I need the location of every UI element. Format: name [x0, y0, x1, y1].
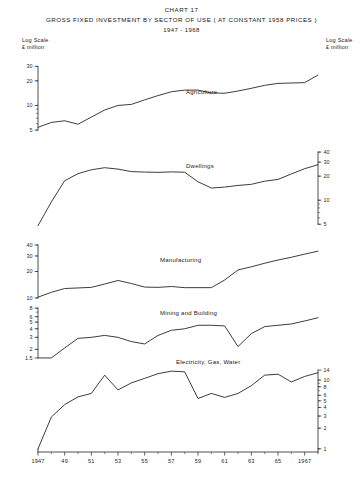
series-line [38, 165, 318, 226]
axis-tick-label: 40 [324, 149, 330, 155]
panels-layer: 5102030Agriculture510203040Dwellings1020… [25, 63, 330, 451]
series-line [38, 371, 318, 449]
axis-tick-label: 6 [30, 314, 33, 320]
x-axis-year-label: 55 [141, 458, 148, 464]
axis-tick-label: 8 [324, 384, 327, 390]
x-axis-year-label: 1947 [31, 458, 44, 464]
axis-tick-label: 3 [30, 334, 33, 340]
series-label: Agriculture [186, 89, 218, 95]
panel-agriculture: 5102030Agriculture [27, 63, 319, 133]
panel-manufacturing: 10203040Manufacturing [27, 242, 319, 301]
right-scale-label-line1: Log Scale [326, 37, 353, 43]
panel-dwellings: 510203040Dwellings [38, 149, 330, 227]
axis-tick-label: 4 [324, 404, 327, 410]
x-axis-year-label: 65 [275, 458, 282, 464]
axis-tick-label: 2 [30, 346, 33, 352]
x-axis-year-label: 63 [248, 458, 255, 464]
right-scale-label-line2: £ million [326, 44, 348, 50]
chart-period: 1947 - 1968 [163, 27, 200, 33]
x-axis-year-label: 53 [115, 458, 122, 464]
axis-tick-label: 4 [30, 326, 33, 332]
panel-mining-and-building: 1.5234568Mining and Building [25, 305, 318, 361]
axis-tick-label: 30 [324, 159, 330, 165]
axis-tick-label: 8 [30, 305, 33, 311]
axis-tick-label: 6 [324, 392, 327, 398]
axis-tick-label: 30 [27, 63, 33, 69]
x-axis-year-label: 59 [195, 458, 202, 464]
x-axis-year-label: 1967 [298, 458, 311, 464]
axis-tick-label: 1 [324, 446, 327, 452]
axis-tick-label: 3 [324, 413, 327, 419]
x-axis-year-label: 57 [168, 458, 175, 464]
axis-tick-label: 10 [324, 377, 330, 383]
axis-tick-label: 1.5 [25, 355, 33, 361]
x-axis-year-label: 49 [61, 458, 68, 464]
chart-title: GROSS FIXED INVESTMENT BY SECTOR OF USE … [46, 16, 317, 23]
axis-tick-label: 5 [324, 221, 327, 227]
series-label: Dwellings [186, 163, 214, 169]
axis-tick-label: 2 [324, 425, 327, 431]
axis-tick-label: 20 [27, 78, 33, 84]
x-axis: 19474951535557596163651967 [31, 449, 318, 464]
axis-tick-label: 10 [27, 102, 33, 108]
axis-tick-label: 20 [324, 173, 330, 179]
chart-number: CHART 17 [165, 6, 199, 13]
axis-tick-label: 10 [27, 295, 33, 301]
axis-tick-label: 5 [30, 319, 33, 325]
panel-electricity-gas-water: 12345681014Electricity, Gas, Water [38, 359, 330, 452]
axis-tick-label: 5 [30, 127, 33, 133]
left-scale-label-line2: £ million [22, 44, 44, 50]
x-axis-year-label: 61 [221, 458, 228, 464]
series-label: Electricity, Gas, Water [176, 359, 240, 365]
axis-tick-label: 14 [324, 367, 330, 373]
axis-tick-label: 10 [324, 197, 330, 203]
series-line [38, 318, 318, 358]
axis-tick-label: 20 [27, 268, 33, 274]
axis-tick-label: 40 [27, 242, 33, 248]
series-label: Manufacturing [160, 257, 201, 263]
axis-tick-label: 30 [27, 253, 33, 259]
series-line [38, 75, 318, 127]
series-label: Mining and Building [160, 310, 217, 316]
chart-canvas: CHART 17 GROSS FIXED INVESTMENT BY SECTO… [0, 0, 363, 483]
x-axis-year-label: 51 [88, 458, 95, 464]
chart-figure: CHART 17 GROSS FIXED INVESTMENT BY SECTO… [0, 0, 363, 483]
axis-tick-label: 5 [324, 398, 327, 404]
left-scale-label-line1: Log Scale [22, 37, 49, 43]
